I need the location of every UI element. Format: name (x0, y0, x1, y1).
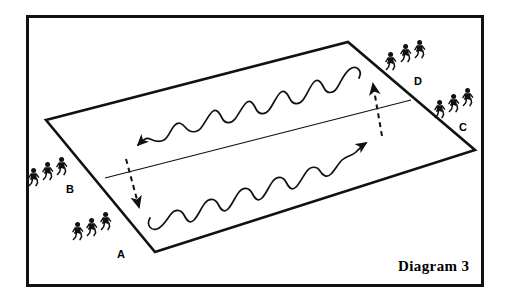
player-figure-d-1 (386, 52, 396, 70)
player-figure-a-2 (87, 218, 97, 236)
player-figure-b-1 (29, 168, 39, 186)
player-figure-a-1 (73, 222, 83, 240)
player-figure-a-3 (101, 212, 111, 230)
diagram-svg (0, 0, 507, 302)
group-label-d: D (414, 75, 422, 87)
player-figure-c-1 (435, 100, 445, 118)
player-figure-c-2 (449, 94, 459, 112)
group-label-c: C (459, 121, 467, 133)
diagram-canvas: ABCD Diagram 3 (0, 0, 507, 302)
player-figure-d-2 (401, 44, 411, 62)
player-figure-b-2 (43, 162, 53, 180)
group-label-b: B (66, 183, 74, 195)
diagram-caption: Diagram 3 (398, 258, 470, 275)
player-figure-b-3 (57, 157, 67, 175)
player-figure-d-3 (415, 40, 425, 58)
player-figure-c-3 (463, 88, 473, 106)
group-label-a: A (117, 248, 125, 260)
